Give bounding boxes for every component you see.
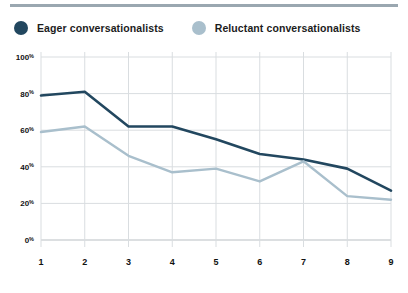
y-tick-0: 0% xyxy=(25,236,34,246)
y-tick-80: 80% xyxy=(20,89,34,99)
x-tick-1: 1 xyxy=(38,257,43,267)
x-tick-4: 4 xyxy=(170,257,175,267)
top-divider-rule xyxy=(10,4,398,7)
chart-plot-area: 100%80%60%40%20%0% 123456789 xyxy=(0,46,408,293)
x-tick-2: 2 xyxy=(82,257,87,267)
legend-label-eager: Eager conversationalists xyxy=(37,22,164,34)
x-axis-tick-labels: 123456789 xyxy=(38,257,393,267)
x-tick-3: 3 xyxy=(126,257,131,267)
y-tick-100: 100% xyxy=(16,53,34,63)
x-tick-8: 8 xyxy=(345,257,350,267)
y-tick-60: 60% xyxy=(20,126,34,136)
legend-item-eager: Eager conversationalists xyxy=(14,21,164,35)
legend-dot-icon-eager xyxy=(14,21,28,35)
y-tick-40: 40% xyxy=(20,162,34,172)
x-tick-6: 6 xyxy=(257,257,262,267)
x-tick-5: 5 xyxy=(213,257,218,267)
legend-label-reluctant: Reluctant conversationalists xyxy=(215,22,361,34)
chart-legend: Eager conversationalists Reluctant conve… xyxy=(14,18,394,38)
x-tick-9: 9 xyxy=(388,257,393,267)
y-tick-20: 20% xyxy=(20,199,34,209)
vertical-gridlines xyxy=(41,52,391,247)
line-chart: 100%80%60%40%20%0% 123456789 xyxy=(0,46,408,293)
y-axis-tick-labels: 100%80%60%40%20%0% xyxy=(16,53,34,246)
x-tick-7: 7 xyxy=(301,257,306,267)
legend-dot-icon-reluctant xyxy=(192,21,206,35)
legend-item-reluctant: Reluctant conversationalists xyxy=(192,21,361,35)
